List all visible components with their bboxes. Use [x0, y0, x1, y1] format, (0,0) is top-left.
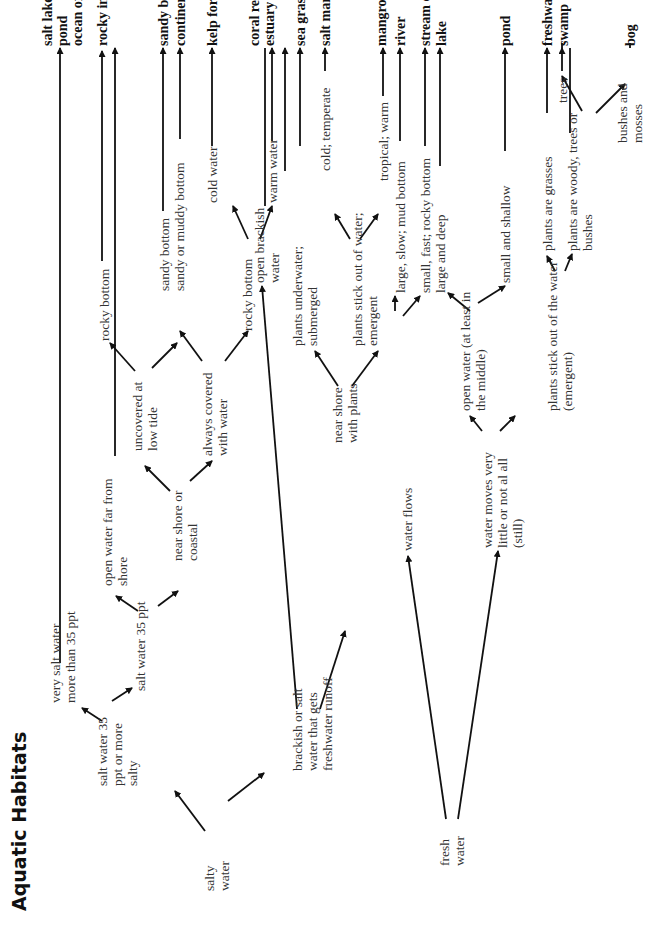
- node-still-water: water moves very little or not al all (s…: [480, 428, 525, 548]
- node-near-coastal: near shore or coastal: [170, 481, 200, 561]
- node-cold-temperate: cold; temperate: [318, 87, 333, 171]
- node-small-shallow: small and shallow: [498, 186, 513, 284]
- habitat-freshwater-marsh: freshwater marsh: [540, 0, 555, 46]
- habitat-swamp: swamp: [556, 4, 571, 46]
- habitat-sandy-beach: sandy beach: [156, 0, 171, 46]
- habitat-estuary: estuary: [262, 2, 277, 46]
- node-warm-water: warm water: [265, 139, 280, 203]
- node-open-middle: open water (at least in the middle): [458, 286, 488, 411]
- habitat-kelp-forest: kelp forest: [205, 0, 220, 46]
- node-large-slow: large, slow; mud bottom: [393, 161, 408, 293]
- node-small-fast: small, fast; rocky bottom: [418, 158, 433, 293]
- node-woody: plants are woody, trees or bushes: [565, 101, 595, 251]
- node-grasses: plants are grasses: [540, 157, 555, 251]
- node-salty-water: salty water: [202, 851, 232, 891]
- node-bushes-mosses: bushes and mosses: [615, 73, 645, 143]
- node-open-brackish: open brackish water: [252, 203, 282, 283]
- habitat-coral-reef: coral reef: [247, 0, 262, 46]
- node-sandy-muddy: sandy or muddy bottom: [172, 162, 187, 291]
- node-plants-emergent: plants stick out of the water (emergent): [545, 261, 575, 411]
- node-very-salt: very salt water more than 35 ppt: [48, 595, 78, 703]
- aquatic-habitats-key-diagram: Aquatic Habitats salty water fresh water…: [0, 0, 661, 951]
- habitat-rocky-intertidal: rocky intertidal: [95, 0, 110, 46]
- habitat-bog: bog: [623, 24, 638, 46]
- node-always-covered: always covered with water: [200, 356, 230, 456]
- habitat-mangrove-swamp: mangrove swamp: [374, 0, 389, 46]
- node-large-deep: large and deep: [433, 215, 448, 293]
- node-near-plants: near shore with plants: [330, 381, 360, 443]
- node-brackish-runoff: brackish or salt water that gets freshwa…: [290, 661, 335, 771]
- habitat-lake: lake: [434, 21, 449, 46]
- habitat-salt-lake: salt lake or salt pond: [40, 0, 70, 46]
- habitat-pond: pond: [498, 16, 513, 46]
- habitat-continental-shelf: continental shelf: [173, 0, 188, 46]
- diagram-title: Aquatic Habitats: [8, 732, 30, 911]
- node-tropical: tropical; warm: [376, 102, 391, 181]
- node-water-flows: water flows: [400, 488, 415, 551]
- node-uncovered: uncovered at low tide: [130, 366, 160, 451]
- node-emergent: plants stick out of water; emergent: [350, 186, 380, 346]
- node-sandy-bottom: sandy bottom: [157, 218, 172, 291]
- habitat-stream: stream or creek: [418, 0, 433, 46]
- habitat-sea-grass-bed: sea grass bed: [293, 0, 308, 46]
- habitat-river: river: [393, 16, 408, 46]
- node-rocky-bottom-1: rocky bottom: [97, 269, 112, 341]
- node-cold-water: cold water: [205, 146, 220, 203]
- node-open-far: open water far from shore: [100, 466, 130, 586]
- node-salt-35: salt water 35 ppt: [133, 601, 148, 691]
- node-fresh-water: fresh water: [437, 826, 467, 866]
- habitat-ocean: ocean or sea: [70, 0, 85, 46]
- node-salt-35-or-more: salt water 35 ppt or more salty: [95, 704, 140, 786]
- habitat-salt-marsh: salt marsh: [318, 0, 333, 46]
- node-submerged: plants underwater; submerged: [290, 196, 320, 346]
- node-trees: trees: [555, 78, 570, 103]
